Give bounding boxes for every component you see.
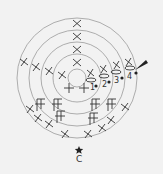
round-label-4: 4 <box>127 72 132 81</box>
round-markers <box>75 60 148 154</box>
round-label-3: 3 <box>114 76 119 85</box>
start-label: C <box>76 154 82 164</box>
crochet-chart <box>0 0 163 174</box>
round-label-2: 2 <box>102 80 107 89</box>
star-icon <box>75 146 83 154</box>
start-arrow-icon <box>135 60 148 70</box>
round-label-1: 1 <box>90 83 95 92</box>
